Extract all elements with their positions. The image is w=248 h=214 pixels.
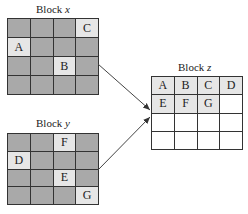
arrows-layer <box>0 0 248 214</box>
arrow-y-to-z <box>98 117 150 170</box>
arrow-x-to-z <box>98 64 150 110</box>
